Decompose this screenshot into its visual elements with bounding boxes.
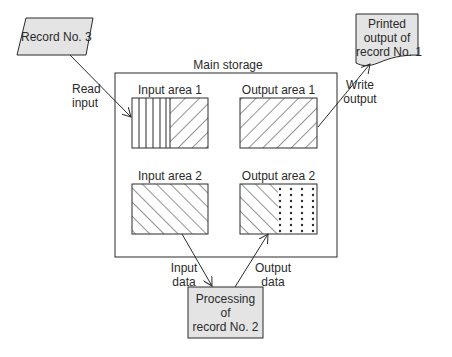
read-input-label: Read input <box>72 82 101 110</box>
printed-output-label: Printed output of record No. 1 <box>356 17 418 59</box>
read-input-line2: input <box>72 96 101 110</box>
write-output-line1: Write <box>340 78 380 92</box>
write-output-line2: output <box>340 92 380 106</box>
input-data-line2: data <box>164 275 204 289</box>
output-data-line2: data <box>251 275 295 289</box>
processing-line3: record No. 2 <box>188 320 263 334</box>
output-area-1-box <box>240 98 317 148</box>
output-data-line1: Output <box>251 261 295 275</box>
input-data-line1: Input <box>164 261 204 275</box>
printed-output-line3: record No. 1 <box>356 45 418 59</box>
output-area-2-label: Output area 2 <box>236 169 321 183</box>
processing-label: Processing of record No. 2 <box>188 292 263 334</box>
main-storage-title: Main storage <box>180 58 276 72</box>
output-data-label: Output data <box>251 261 295 289</box>
output-area-2-box <box>240 184 317 234</box>
printed-output-line1: Printed <box>356 17 418 31</box>
output-area-1-label: Output area 1 <box>236 83 321 97</box>
printed-output-line2: output of <box>356 31 418 45</box>
input-area-2-label: Input area 2 <box>130 169 210 183</box>
processing-line1: Processing <box>188 292 263 306</box>
input-data-label: Input data <box>164 261 204 289</box>
processing-line2: of <box>188 306 263 320</box>
input-area-2-box <box>132 184 208 234</box>
input-area-1-label: Input area 1 <box>130 83 210 97</box>
input-record-label: Record No. 3 <box>21 30 92 44</box>
read-input-line1: Read <box>72 82 101 96</box>
write-output-label: Write output <box>340 78 380 106</box>
input-area-1-box <box>132 98 208 148</box>
